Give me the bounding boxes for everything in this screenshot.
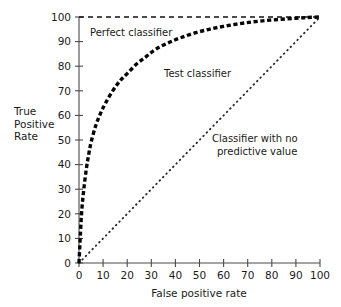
- annotation-no-predictive-value-line-1: Classifier with no: [212, 133, 298, 144]
- x-axis: 0102030405060708090100: [76, 259, 330, 281]
- y-axis-title-line-3: Rate: [14, 130, 38, 142]
- annotations-group: Perfect classifier Test classifier Class…: [90, 27, 301, 157]
- x-tick-label: 60: [217, 269, 230, 281]
- annotation-test-classifier: Test classifier: [163, 68, 232, 79]
- y-tick-label: 90: [58, 35, 71, 47]
- x-tick-label: 50: [193, 269, 206, 281]
- x-tick-label: 90: [289, 269, 302, 281]
- x-tick-label: 20: [121, 269, 134, 281]
- y-tick-label: 100: [51, 11, 71, 23]
- y-tick-labels: 0102030405060708090100: [51, 11, 71, 269]
- y-tick-label: 20: [58, 208, 71, 220]
- y-tick-label: 30: [58, 183, 71, 195]
- y-tick-label: 70: [58, 85, 71, 97]
- annotation-perfect-classifier: Perfect classifier: [90, 27, 173, 38]
- y-tick-label: 80: [58, 60, 71, 72]
- x-tick-label: 30: [145, 269, 158, 281]
- y-tick-label: 40: [58, 158, 71, 170]
- roc-chart: 0102030405060708090100 01020304050607080…: [0, 0, 341, 307]
- y-tick-label: 50: [58, 134, 71, 146]
- y-axis: 0102030405060708090100: [51, 11, 83, 269]
- x-tick-label: 40: [169, 269, 182, 281]
- x-tick-label: 100: [310, 269, 330, 281]
- y-axis-title-line-2: Positive: [14, 118, 54, 130]
- y-tick-label: 10: [58, 232, 71, 244]
- x-tick-label: 80: [265, 269, 278, 281]
- y-axis-title: True Positive Rate: [13, 105, 58, 142]
- x-tick-labels: 0102030405060708090100: [76, 269, 330, 281]
- annotation-no-predictive-value-line-2: predictive value: [217, 146, 297, 157]
- x-tick-label: 10: [96, 269, 109, 281]
- roc-plot-svg: 0102030405060708090100 01020304050607080…: [0, 0, 341, 307]
- x-tick-label: 70: [241, 269, 254, 281]
- x-tick-label: 0: [76, 269, 83, 281]
- y-tick-label: 60: [58, 109, 71, 121]
- y-axis-title-line-1: True: [13, 105, 36, 117]
- y-tick-label: 0: [64, 257, 71, 269]
- x-axis-title: False positive rate: [151, 287, 247, 299]
- annotation-no-predictive-value: Classifier with no predictive value: [212, 133, 301, 157]
